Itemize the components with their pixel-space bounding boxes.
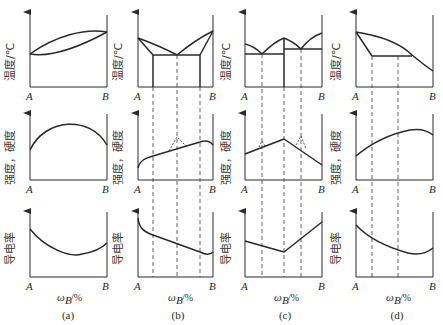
panel-c: 温度/℃ A B 强度，硬度 A B 导电率 A B ω (219, 12, 325, 322)
label-b: B (209, 183, 216, 195)
y-label-temperature: 温度/℃ (3, 43, 17, 81)
panel-d-temperature-chart: 温度/℃ A B (329, 12, 436, 102)
label-b: B (429, 90, 436, 102)
label-a: A (133, 183, 141, 195)
svg-text:ω: ω (386, 291, 394, 303)
strength-curve (30, 124, 107, 150)
y-label-strength: 强度，硬度 (3, 130, 17, 185)
label-a: A (25, 183, 33, 195)
y-label-conductivity: 导电率 (3, 232, 17, 265)
panel-d-conductivity-chart: 导电率 A B (329, 211, 436, 292)
panel-d: 温度/℃ A B 强度，硬度 A B 导电率 A B ω B /% (329, 12, 436, 322)
svg-text:ω: ω (274, 291, 282, 303)
liquidus-right (177, 31, 213, 55)
strength-curve (356, 129, 433, 156)
y-label-conductivity: 导电率 (111, 232, 125, 265)
conductivity-curve (138, 218, 213, 254)
label-b: B (102, 90, 109, 102)
svg-text:/%: /% (288, 292, 299, 303)
label-a: A (133, 280, 141, 292)
svg-text:/%: /% (182, 292, 193, 303)
caption-a: (a) (62, 309, 75, 322)
label-a: A (25, 280, 33, 292)
panel-a-temperature-chart: 温度/℃ A B (3, 12, 109, 102)
x-axis-label: ω B /% (57, 291, 82, 306)
svg-text:/%: /% (400, 292, 411, 303)
label-b: B (429, 183, 436, 195)
svg-text:ω: ω (168, 291, 176, 303)
caption-b: (b) (172, 309, 185, 322)
y-label-temperature: 温度/℃ (111, 43, 125, 81)
liquidus-4 (301, 33, 322, 49)
label-b: B (429, 280, 436, 292)
label-a: A (351, 183, 359, 195)
strength-curve (245, 139, 322, 165)
svg-text:/%: /% (71, 292, 82, 303)
panel-d-strength-chart: 强度，硬度 A B (329, 113, 436, 195)
y-label-temperature: 温度/℃ (329, 43, 343, 81)
label-b: B (102, 183, 109, 195)
liquidus-1 (245, 44, 262, 54)
caption-c: (c) (279, 309, 292, 322)
panel-c-conductivity-chart: 导电率 A B (219, 211, 325, 292)
y-label-strength: 强度，硬度 (219, 130, 233, 185)
label-a: A (351, 90, 359, 102)
liquidus-2 (262, 38, 284, 54)
y-label-strength: 强度，硬度 (329, 130, 343, 185)
panel-a-strength-chart: 强度，硬度 A B (3, 113, 109, 195)
svg-text:ω: ω (57, 291, 65, 303)
x-axis-label: ω B /% (274, 291, 299, 306)
label-b: B (318, 183, 325, 195)
label-a: A (240, 183, 248, 195)
strength-curve (138, 141, 213, 168)
caption-d: (d) (391, 309, 404, 322)
y-label-strength: 强度，硬度 (111, 130, 125, 185)
label-b: B (102, 280, 109, 292)
label-b: B (209, 90, 216, 102)
label-b: B (209, 280, 216, 292)
label-b: B (318, 90, 325, 102)
liquidus-curve (30, 31, 107, 54)
panel-b: 温度/℃ A B 强度，硬度 A B 导电率 A B ω (111, 12, 216, 322)
liquidus-left (138, 38, 177, 55)
solidus-line (356, 32, 372, 56)
label-a: A (25, 90, 33, 102)
conductivity-curve (245, 222, 322, 252)
conductivity-curve (356, 225, 433, 254)
liquidus-3 (284, 38, 301, 49)
y-label-conductivity: 导电率 (329, 232, 343, 265)
panel-a: 温度/℃ A B 强度，硬度 A B 导电率 A B ω B /% (3, 12, 109, 322)
label-a: A (240, 280, 248, 292)
label-a: A (240, 90, 248, 102)
panel-a-conductivity-chart: 导电率 A B (3, 211, 109, 292)
conductivity-curve (30, 229, 107, 255)
label-a: A (133, 90, 141, 102)
phase-diagram-property-figure: 温度/℃ A B 强度，硬度 A B 导电率 A B ω B /% (0, 0, 443, 325)
label-a: A (351, 280, 359, 292)
panel-c-strength-chart: 强度，硬度 A B (219, 113, 325, 195)
y-label-temperature: 温度/℃ (219, 43, 233, 81)
y-label-conductivity: 导电率 (219, 232, 233, 265)
x-axis-label: ω B /% (168, 291, 193, 306)
liquidus-curve (356, 32, 433, 71)
panel-c-temperature-chart: 温度/℃ A B (219, 12, 325, 102)
x-axis-label: ω B /% (386, 291, 411, 306)
label-b: B (318, 280, 325, 292)
